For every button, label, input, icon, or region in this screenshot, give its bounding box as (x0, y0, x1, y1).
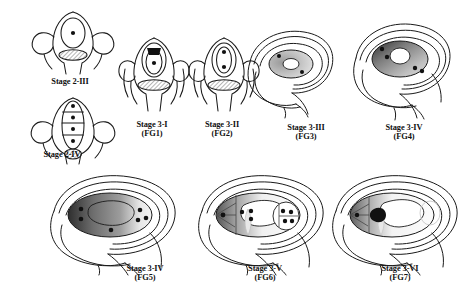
nucleus (109, 228, 114, 233)
nucleus (144, 216, 149, 221)
fg-label: (FG6) (248, 273, 282, 282)
panel-stage-3-vi (312, 165, 470, 275)
nucleus (283, 219, 287, 223)
fg-label: (FG5) (127, 273, 164, 282)
nucleus (71, 31, 75, 35)
stage-label: Stage 3-I (137, 120, 168, 129)
nucleus (277, 54, 281, 58)
central-vacuole (283, 59, 299, 70)
caption-stage-2-iv: Stage 2-IV (44, 150, 81, 159)
nucleus (222, 50, 226, 54)
caption-stage-3-iv-fg5: Stage 3-IV (FG5) (127, 264, 164, 283)
caption-stage-3-vi: Stage 3-VI (FG7) (382, 264, 419, 283)
caption-stage-3-iv-fg4: Stage 3-IV (FG4) (386, 123, 423, 142)
nucleus (79, 207, 84, 212)
figure-canvas: Stage 2-III (0, 0, 470, 300)
nucleus (79, 217, 84, 222)
fg-label: (FG1) (137, 129, 168, 138)
nucleus (300, 70, 304, 74)
nucleus (249, 209, 253, 213)
nucleus (355, 213, 359, 217)
fg-label: (FG7) (382, 273, 419, 282)
panel-stage-3-iv-fg5 (30, 165, 190, 275)
caption-stage-3-iii: Stage 3-III (FG3) (287, 123, 324, 142)
nucleus (249, 217, 253, 221)
nucleus (281, 209, 285, 213)
embryo-sac (269, 50, 313, 78)
stage-label: Stage 3-III (287, 123, 324, 132)
nucleus (222, 65, 226, 69)
caption-stage-3-ii: Stage 3-II (FG2) (205, 120, 239, 139)
panel-stage-3-iv-fg4 (336, 14, 466, 122)
stage-label: Stage 3-IV (127, 264, 164, 273)
fg-label: (FG2) (205, 129, 239, 138)
stage-label: Stage 2-III (51, 77, 88, 86)
stage-label: Stage 3-V (248, 264, 282, 273)
fg-label: (FG4) (386, 132, 423, 141)
hatched-base (59, 50, 87, 60)
nucleus (290, 219, 294, 223)
embryo-sac (350, 193, 440, 237)
central-vacuole (390, 48, 410, 64)
nucleus (289, 210, 293, 214)
caption-stage-3-i: Stage 3-I (FG1) (137, 120, 168, 139)
nucleus (152, 61, 156, 65)
nucleus (71, 127, 75, 131)
embryo-sac (216, 193, 300, 237)
nucleus (221, 213, 226, 218)
nucleus (385, 55, 389, 59)
nucleus (136, 218, 141, 223)
nucleus (71, 139, 75, 143)
stage-label: Stage 3-VI (382, 264, 419, 273)
panel-stage-3-iii (232, 20, 352, 120)
nucleus (71, 116, 75, 120)
nucleus (380, 47, 384, 51)
nucleus (240, 210, 244, 214)
stage-label: Stage 2-IV (44, 150, 81, 159)
degenerating-megaspore (147, 48, 161, 55)
caption-stage-2-iii: Stage 2-III (51, 77, 88, 86)
caption-stage-3-v: Stage 3-V (FG6) (248, 264, 282, 283)
nucleus (413, 66, 417, 70)
nucleus (420, 69, 424, 73)
hatched-base (138, 80, 170, 91)
stage-label: Stage 3-IV (386, 123, 423, 132)
nucleus (71, 104, 75, 108)
embryo-sac (372, 41, 428, 77)
stage-label: Stage 3-II (205, 120, 239, 129)
fg-label: (FG3) (287, 132, 324, 141)
nucleus (138, 208, 143, 213)
